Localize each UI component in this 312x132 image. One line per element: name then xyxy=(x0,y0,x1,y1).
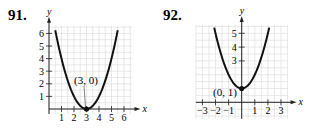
y-axis-arrow xyxy=(47,17,51,23)
x-tick-label: 1 xyxy=(252,105,257,116)
x-tick-label: 2 xyxy=(72,112,77,123)
y-tick-label: 4 xyxy=(232,42,237,53)
x-axis-label: x xyxy=(298,96,304,107)
x-tick-label: −2 xyxy=(210,105,221,116)
y-tick-label: 4 xyxy=(39,53,44,64)
x-tick-label: 3 xyxy=(84,112,89,123)
y-tick-label: 5 xyxy=(232,28,237,39)
graph-91: xy123456123456(3, 0)xy−3−2−1123345(0, 1) xyxy=(0,0,312,132)
y-axis-arrow xyxy=(240,16,244,22)
y-tick-label: 6 xyxy=(39,28,44,39)
y-axis-label: y xyxy=(46,6,52,17)
x-tick-label: 6 xyxy=(122,112,127,123)
y-tick-label: 3 xyxy=(39,66,44,77)
x-tick-label: 5 xyxy=(109,112,114,123)
vertex-point xyxy=(239,86,244,91)
vertex-label: (3, 0) xyxy=(74,74,98,87)
x-tick-label: −1 xyxy=(223,105,234,116)
x-tick-label: 2 xyxy=(265,105,270,116)
x-tick-label: 1 xyxy=(59,112,64,123)
x-tick-label: −3 xyxy=(197,105,208,116)
y-tick-label: 1 xyxy=(39,91,44,102)
vertex-label: (0, 1) xyxy=(213,86,237,99)
x-tick-label: 3 xyxy=(279,105,284,116)
x-axis-label: x xyxy=(142,103,148,114)
vertex-point xyxy=(84,106,89,111)
y-tick-label: 5 xyxy=(39,41,44,52)
y-tick-label: 3 xyxy=(232,55,237,66)
x-axis-arrow xyxy=(291,100,297,104)
x-tick-label: 4 xyxy=(97,112,102,123)
y-axis-label: y xyxy=(239,5,245,16)
x-axis-arrow xyxy=(135,107,141,111)
y-tick-label: 2 xyxy=(39,78,44,89)
